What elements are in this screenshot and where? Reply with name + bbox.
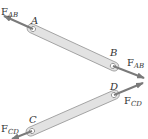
svg-text:CD: CD (8, 128, 19, 136)
svg-text:AB: AB (133, 62, 144, 70)
point-label-a: A (30, 15, 38, 26)
force-label-cd-right: F CD (124, 95, 142, 108)
force-arrow-cd-right-icon (114, 83, 143, 95)
svg-text:CD: CD (131, 100, 142, 108)
point-label-b: B (109, 47, 117, 58)
member-ab (26, 22, 121, 72)
force-label-cd-left: F CD (1, 123, 19, 136)
member-cd (25, 89, 121, 138)
force-label-ab-left: F AB (1, 6, 18, 19)
svg-text:AB: AB (7, 11, 18, 19)
point-label-c: C (29, 114, 37, 125)
force-label-ab-right: F AB (127, 57, 144, 70)
svg-text:F: F (127, 57, 134, 68)
svg-text:F: F (124, 95, 131, 106)
svg-text:F: F (1, 123, 8, 134)
two-force-members-diagram: A B D C F AB F AB F CD F CD (0, 0, 148, 139)
point-label-d: D (109, 81, 118, 92)
svg-text:F: F (1, 6, 8, 17)
